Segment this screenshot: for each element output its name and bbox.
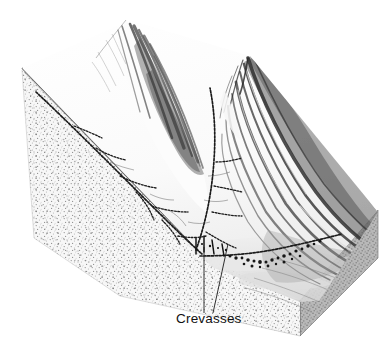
crevasses-label: Crevasses [176, 311, 242, 326]
diagram-canvas: Crevasses [0, 0, 392, 358]
glacier-block-diagram: Crevasses [0, 0, 392, 358]
